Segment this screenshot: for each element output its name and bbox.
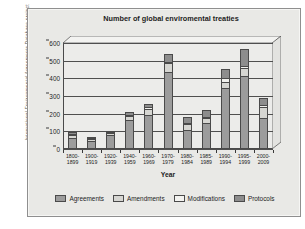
legend-swatch-agreements <box>55 195 66 202</box>
bar-stack <box>183 117 192 149</box>
plot-area: 0100200300400500600 <box>63 36 281 149</box>
chart-legend: AgreementsAmendmentsModificationsProtoco… <box>38 190 292 206</box>
legend-swatch-protocols <box>234 195 245 202</box>
x-axis-tick-mark <box>273 150 274 153</box>
bar-stack <box>164 54 173 149</box>
x-axis: 1800- 18991900- 19191920- 19391940- 1959… <box>63 150 273 172</box>
bar-segment-amendments <box>164 63 173 72</box>
legend-swatch-modifications <box>174 195 185 202</box>
bar-segment-amendments <box>240 68 249 76</box>
y-axis-tick-label: 600 <box>49 40 60 47</box>
bar-segment-agreements <box>87 141 96 149</box>
legend-label: Agreements <box>69 195 103 202</box>
bar-segment-protocols <box>240 49 249 66</box>
bar-segment-protocols <box>202 110 211 117</box>
bar-segment-amendments <box>259 107 268 118</box>
bar-segment-agreements <box>125 120 134 149</box>
bar-stack <box>68 132 77 149</box>
bar-segment-agreements <box>106 135 115 149</box>
bar-segment-agreements <box>68 138 77 149</box>
bar-segment-protocols <box>164 54 173 62</box>
legend-swatch-amendments <box>113 195 124 202</box>
y-axis-tick-mark <box>46 75 49 76</box>
x-axis-title: Year <box>63 171 273 178</box>
y-axis-tick-label: 300 <box>49 93 60 100</box>
legend-item-agreements[interactable]: Agreements <box>55 195 103 202</box>
bar-stack <box>202 110 211 149</box>
y-axis-tick-label: 0 <box>56 146 60 153</box>
bar-stack <box>221 69 230 149</box>
legend-item-protocols[interactable]: Protocols <box>234 195 275 202</box>
plot-depth-right-face <box>272 36 281 149</box>
x-axis-tick-label: 2000- 2009 <box>252 153 274 165</box>
bar-segment-agreements <box>202 123 211 149</box>
bar-stack <box>144 104 153 149</box>
y-axis-tick-label: 400 <box>49 75 60 82</box>
y-axis-tick-label: 500 <box>49 57 60 64</box>
y-axis-tick-mark <box>46 110 49 111</box>
bar-stack <box>125 112 134 149</box>
y-axis-tick-label: 100 <box>49 128 60 135</box>
bar-segment-agreements <box>164 72 173 149</box>
legend-label: Protocols <box>248 195 275 202</box>
legend-item-modifications[interactable]: Modifications <box>174 195 225 202</box>
chart-panel: Number of global enviromental treaties 0… <box>27 8 301 217</box>
bar-stack <box>259 98 268 150</box>
bar-segment-agreements <box>144 115 153 149</box>
bar-segment-protocols <box>221 69 230 79</box>
bar-segment-agreements <box>240 76 249 149</box>
bar-stack <box>240 49 249 149</box>
y-axis-tick-mark <box>46 40 49 41</box>
y-axis-tick-label: 200 <box>49 110 60 117</box>
y-axis-tick-mark <box>46 57 49 58</box>
bars-group <box>63 43 273 149</box>
y-axis-tick-mark <box>53 146 56 147</box>
chart-figure: International Environmental Agreements D… <box>0 0 305 229</box>
bar-segment-agreements <box>183 130 192 149</box>
bar-segment-protocols <box>259 98 268 106</box>
legend-label: Amendments <box>127 195 165 202</box>
bar-stack <box>87 137 96 149</box>
bar-stack <box>106 131 115 149</box>
chart-title: Number of global enviromental treaties <box>28 14 300 23</box>
y-axis-tick-mark <box>46 128 49 129</box>
bar-segment-agreements <box>221 88 230 149</box>
bar-segment-agreements <box>259 118 268 149</box>
y-axis-tick-mark <box>46 93 49 94</box>
legend-label: Modifications <box>188 195 225 202</box>
legend-item-amendments[interactable]: Amendments <box>113 195 165 202</box>
